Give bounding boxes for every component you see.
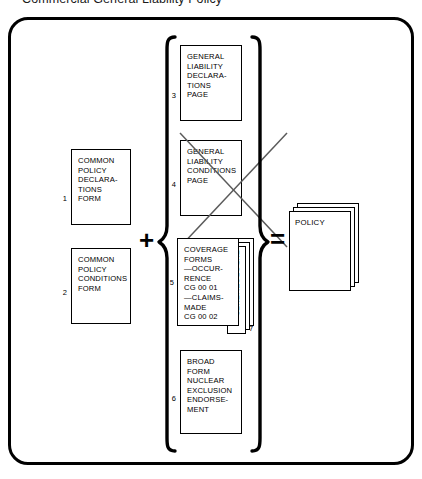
common-policy-conditions-form: COMMON POLICY CONDITIONS FORM (71, 248, 131, 324)
coverage-forms: COVERAGE FORMS —OCCUR- RENCE CG 00 01 —C… (177, 238, 239, 326)
broad-form-nuclear-exclusion-endorsement: BROAD FORM NUCLEAR EXCLUSION ENDORSE- ME… (180, 350, 242, 434)
doc-text: BROAD FORM NUCLEAR EXCLUSION ENDORSE- ME… (187, 357, 236, 415)
index-label-5: 5 (163, 278, 174, 287)
doc-text: COVERAGE FORMS —OCCUR- RENCE CG 00 01 —C… (184, 245, 233, 322)
index-label-3: 3 (165, 91, 176, 100)
doc-text: COMMON POLICY CONDITIONS FORM (78, 255, 125, 293)
doc-text: GENERAL LIABILITY DECLARA- TIONS PAGE (187, 52, 236, 100)
policy-label: POLICY (295, 218, 325, 227)
equals-operator: = (270, 226, 285, 252)
general-liability-declarations-page: GENERAL LIABILITY DECLARA- TIONS PAGE (180, 45, 242, 121)
index-label-1: 1 (56, 194, 67, 203)
right-brace (249, 34, 271, 454)
index-label-2: 2 (56, 288, 67, 297)
diagram-page: Commercial General Liability Policy COMM… (0, 0, 422, 479)
doc-text: COMMON POLICY DECLARA- TIONS FORM (78, 156, 125, 204)
page-title: Commercial General Liability Policy (22, 0, 222, 6)
index-label-6: 6 (165, 394, 176, 403)
plus-operator: + (139, 227, 154, 253)
common-policy-declarations-form: COMMON POLICY DECLARA- TIONS FORM (71, 149, 131, 225)
